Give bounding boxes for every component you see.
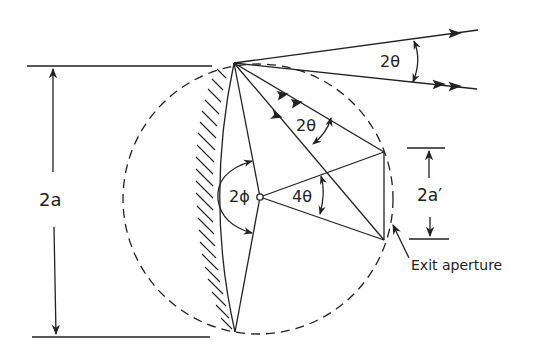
label-2phi: 2ϕ xyxy=(229,187,250,206)
exit-aperture-pointer xyxy=(393,225,409,258)
label-exit-aperture: Exit aperture xyxy=(411,257,502,273)
label-internal-2theta: 2θ xyxy=(296,116,316,135)
incoming-rays xyxy=(234,30,478,90)
center-point xyxy=(257,194,263,200)
concentrator-diagram: 2a 2θ 2θ 4θ 2ϕ 2a′ Exit aperture xyxy=(0,0,556,350)
label-2a: 2a xyxy=(39,189,61,210)
label-input-2theta: 2θ xyxy=(380,52,400,71)
label-2a-prime: 2a′ xyxy=(417,185,442,205)
label-4theta: 4θ xyxy=(292,187,312,206)
